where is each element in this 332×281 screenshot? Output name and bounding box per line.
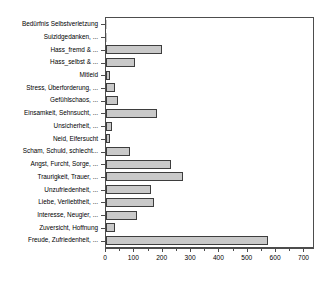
bar-row xyxy=(106,82,313,95)
bar-row xyxy=(106,18,313,31)
bar-row xyxy=(106,56,313,69)
y-axis-label: Scham, Schuld, schlecht... xyxy=(0,145,100,158)
y-axis-label: Zuversicht, Hoffnung xyxy=(0,222,100,235)
x-axis-major-tick xyxy=(247,248,248,252)
x-axis-tick-label: 600 xyxy=(270,254,281,261)
bar xyxy=(106,58,135,67)
y-axis-label: Liebe, Verliebtheit, ... xyxy=(0,196,100,209)
x-axis-minor-tick xyxy=(289,248,290,251)
bar xyxy=(106,134,110,143)
bar-row xyxy=(106,209,313,222)
bar xyxy=(106,223,115,232)
x-axis-minor-tick xyxy=(119,248,120,251)
bar-row xyxy=(106,120,313,133)
x-axis-major-tick xyxy=(105,248,106,252)
x-axis-minor-tick xyxy=(176,248,177,251)
x-axis-minor-tick xyxy=(148,248,149,251)
bar-row xyxy=(106,234,313,247)
y-axis-label: Mitleid xyxy=(0,69,100,82)
bar-row xyxy=(106,145,313,158)
bar-row xyxy=(106,183,313,196)
x-axis: 0100200300400500600700 xyxy=(105,248,314,250)
x-axis-tick-label: 700 xyxy=(298,254,309,261)
bars-layer xyxy=(106,18,313,247)
x-axis-tick-label: 200 xyxy=(156,254,167,261)
bar-row xyxy=(106,94,313,107)
bar xyxy=(106,20,107,29)
y-axis-label: Unzufriedenheit, ... xyxy=(0,183,100,196)
y-axis-label: Gefühlschaos, ... xyxy=(0,94,100,107)
x-axis-major-tick xyxy=(218,248,219,252)
x-axis-tick-label: 400 xyxy=(213,254,224,261)
bar xyxy=(106,236,268,245)
x-axis-line xyxy=(105,248,314,249)
y-axis-label: Unsicherheit, ... xyxy=(0,120,100,133)
x-axis-minor-tick xyxy=(204,248,205,251)
x-axis-minor-tick xyxy=(261,248,262,251)
x-axis-tick-label: 100 xyxy=(128,254,139,261)
bar xyxy=(106,122,112,131)
bar xyxy=(106,160,171,169)
bar xyxy=(106,198,154,207)
y-axis-labels: Bedürfnis SelbstverletzungSuizidgedanken… xyxy=(0,18,100,247)
bar-row xyxy=(106,196,313,209)
bar xyxy=(106,83,115,92)
bar-row xyxy=(106,158,313,171)
y-axis-label: Hass_fremd & ... xyxy=(0,43,100,56)
bar xyxy=(106,211,137,220)
x-axis-major-tick xyxy=(303,248,304,252)
y-axis-label: Stress, Überforderung, ... xyxy=(0,82,100,95)
x-axis-major-tick xyxy=(275,248,276,252)
bar xyxy=(106,185,151,194)
bar xyxy=(106,109,157,118)
bar-row xyxy=(106,171,313,184)
bar xyxy=(106,147,130,156)
x-axis-major-tick xyxy=(133,248,134,252)
bar xyxy=(106,33,107,42)
x-axis-tick-label: 0 xyxy=(103,254,107,261)
bar-chart: Bedürfnis SelbstverletzungSuizidgedanken… xyxy=(0,0,332,281)
y-axis-label: Traurigkeit, Trauer, ... xyxy=(0,171,100,184)
bar xyxy=(106,96,118,105)
bar xyxy=(106,71,110,80)
y-axis-label: Suizidgedanken, ... xyxy=(0,31,100,44)
x-axis-minor-tick xyxy=(233,248,234,251)
x-axis-major-tick xyxy=(190,248,191,252)
x-axis-major-tick xyxy=(162,248,163,252)
bar-row xyxy=(106,222,313,235)
y-axis-label: Hass_selbst & ... xyxy=(0,56,100,69)
bar-row xyxy=(106,69,313,82)
bar xyxy=(106,45,162,54)
y-axis-label: Einsamkeit, Sehnsucht, ... xyxy=(0,107,100,120)
bar-row xyxy=(106,107,313,120)
y-axis-label: Neid, Eifersucht xyxy=(0,132,100,145)
bar-row xyxy=(106,31,313,44)
y-axis-label: Angst, Furcht, Sorge, ... xyxy=(0,158,100,171)
y-axis-label: Bedürfnis Selbstverletzung xyxy=(0,18,100,31)
bar-row xyxy=(106,43,313,56)
bar xyxy=(106,172,183,181)
x-axis-tick-label: 500 xyxy=(241,254,252,261)
y-axis-label: Interesse, Neugier, ... xyxy=(0,209,100,222)
x-axis-tick-label: 300 xyxy=(185,254,196,261)
bar-row xyxy=(106,132,313,145)
y-axis-label: Freude, Zufriedenheit, ... xyxy=(0,234,100,247)
